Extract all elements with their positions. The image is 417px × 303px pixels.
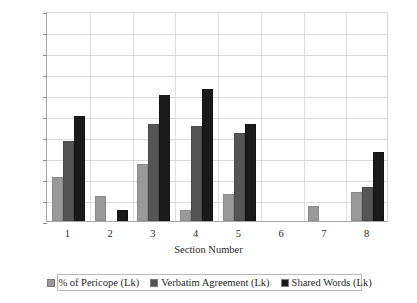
bar-group bbox=[137, 13, 170, 221]
plot-area bbox=[46, 12, 388, 222]
bar bbox=[202, 89, 213, 221]
y-axis-tick-mark bbox=[43, 34, 47, 35]
y-axis-tick-mark bbox=[43, 202, 47, 203]
vertical-gridline bbox=[304, 13, 305, 221]
bar bbox=[180, 210, 191, 221]
vertical-gridline bbox=[90, 13, 91, 221]
vertical-gridline bbox=[346, 13, 347, 221]
y-axis-tick-mark bbox=[43, 76, 47, 77]
legend-label: Shared Words (Lk) bbox=[292, 277, 372, 288]
bar-group bbox=[351, 13, 384, 221]
bar bbox=[159, 95, 170, 221]
legend-label: % of Pericope (Lk) bbox=[58, 277, 139, 288]
vertical-gridline bbox=[175, 13, 176, 221]
bar bbox=[52, 177, 63, 221]
y-axis-tick-mark bbox=[43, 181, 47, 182]
y-axis-tick-mark bbox=[43, 160, 47, 161]
legend-item: Shared Words (Lk) bbox=[281, 277, 372, 288]
bar-group bbox=[52, 13, 85, 221]
x-axis-tick-label: 3 bbox=[133, 228, 173, 240]
x-axis-tick-label: 8 bbox=[347, 228, 387, 240]
legend-item: % of Pericope (Lk) bbox=[47, 277, 139, 288]
y-axis-tick-mark bbox=[43, 55, 47, 56]
y-axis-tick-mark bbox=[43, 97, 47, 98]
bar-group bbox=[95, 13, 128, 221]
legend-swatch-icon bbox=[150, 279, 158, 287]
bar bbox=[351, 192, 362, 221]
legend-swatch-icon bbox=[47, 279, 55, 287]
bar-group bbox=[223, 13, 256, 221]
legend-item: Verbatim Agreement (Lk) bbox=[150, 277, 269, 288]
bar bbox=[191, 126, 202, 221]
y-axis-tick-mark bbox=[43, 118, 47, 119]
bar-group bbox=[266, 13, 299, 221]
bar bbox=[148, 124, 159, 221]
bar bbox=[137, 164, 148, 221]
x-axis-tick-label: 6 bbox=[261, 228, 301, 240]
bar-group bbox=[308, 13, 341, 221]
bar bbox=[373, 152, 384, 221]
y-axis-tick-mark bbox=[43, 13, 47, 14]
y-axis-tick-mark bbox=[43, 223, 47, 224]
bar bbox=[95, 196, 106, 221]
x-axis-title: Section Number bbox=[0, 244, 417, 255]
bar bbox=[245, 124, 256, 221]
bar bbox=[234, 133, 245, 221]
x-axis-tick-label: 7 bbox=[304, 228, 344, 240]
y-axis-tick-mark bbox=[43, 139, 47, 140]
x-axis-tick-label: 5 bbox=[218, 228, 258, 240]
vertical-gridline bbox=[261, 13, 262, 221]
bar bbox=[308, 206, 319, 221]
x-axis-tick-label: 1 bbox=[47, 228, 87, 240]
legend-swatch-icon bbox=[281, 279, 289, 287]
bar bbox=[223, 194, 234, 221]
bar-chart: 100%90%80%70%60%50%40%30%20%10%0% 123456… bbox=[0, 0, 417, 303]
bar-group bbox=[180, 13, 213, 221]
bar bbox=[63, 141, 74, 221]
x-axis-tick-label: 2 bbox=[90, 228, 130, 240]
plot-area-wrapper bbox=[46, 12, 388, 222]
legend-label: Verbatim Agreement (Lk) bbox=[161, 277, 269, 288]
bar bbox=[362, 187, 373, 221]
vertical-gridline bbox=[218, 13, 219, 221]
bar bbox=[117, 210, 128, 221]
vertical-gridline bbox=[133, 13, 134, 221]
bar bbox=[74, 116, 85, 221]
chart-legend: % of Pericope (Lk) Verbatim Agreement (L… bbox=[57, 274, 362, 291]
x-axis-tick-label: 4 bbox=[176, 228, 216, 240]
